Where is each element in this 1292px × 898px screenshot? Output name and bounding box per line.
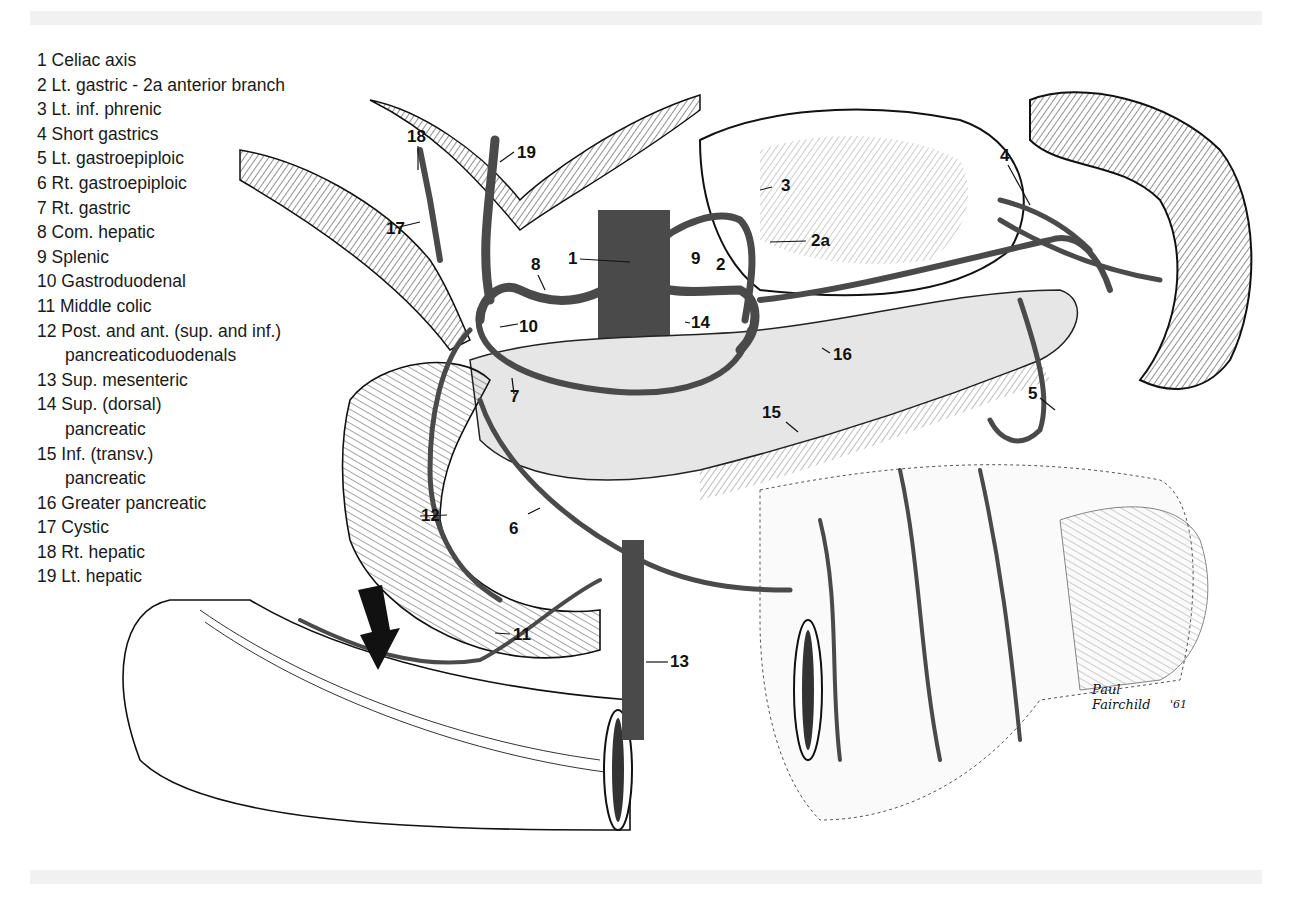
callout-17: 17 (386, 219, 405, 239)
callout-19: 19 (517, 143, 536, 163)
callout-2a: 2a (811, 231, 830, 251)
callout-6: 6 (509, 519, 518, 539)
callout-7: 7 (510, 387, 519, 407)
callout-5: 5 (1028, 384, 1037, 404)
callout-13: 13 (670, 652, 689, 672)
callout-3: 3 (781, 176, 790, 196)
callout-14: 14 (691, 313, 710, 333)
callout-12: 12 (421, 506, 440, 526)
anatomical-illustration (0, 0, 1292, 898)
callout-2: 2 (716, 255, 725, 275)
callout-4: 4 (1000, 146, 1009, 166)
callout-10: 10 (519, 317, 538, 337)
callout-16: 16 (833, 345, 852, 365)
callout-18: 18 (407, 127, 426, 147)
sup-mesenteric-vessel (622, 540, 644, 740)
callout-1: 1 (568, 249, 577, 269)
callout-8: 8 (531, 255, 540, 275)
signature-last-name: Fairchild (1092, 697, 1151, 712)
signature-first-name: Paul (1092, 682, 1151, 697)
callout-15: 15 (762, 403, 781, 423)
mesentery-shape (760, 465, 1208, 820)
signature-year: '61 (1170, 697, 1187, 712)
callout-11: 11 (513, 625, 531, 645)
artist-signature: Paul Fairchild '61 (1092, 682, 1151, 712)
callout-9: 9 (691, 249, 700, 269)
